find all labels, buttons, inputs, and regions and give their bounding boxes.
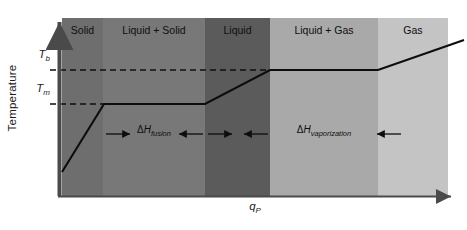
band-liquid-solid — [103, 18, 205, 196]
delta-symbol-vaporization: Δ — [297, 124, 304, 135]
enthalpy-vaporization-main: H — [304, 124, 311, 135]
tick-label-tb-sub: b — [46, 54, 50, 63]
enthalpy-label-fusion: ΔHfusion — [114, 124, 194, 138]
tick-label-tb-main: T — [39, 48, 46, 60]
delta-symbol-fusion: Δ — [137, 124, 144, 135]
x-axis-title: qP — [62, 200, 448, 215]
enthalpy-fusion-main: H — [144, 124, 151, 135]
phase-bands — [62, 18, 448, 196]
band-gas — [378, 18, 448, 196]
heating-curve-figure: Temperature Tb Tm Solid Liquid + Solid L… — [0, 0, 467, 230]
band-liquid-gas — [270, 18, 378, 196]
enthalpy-fusion-sub: fusion — [151, 129, 171, 138]
band-label-liquid-solid: Liquid + Solid — [103, 24, 205, 36]
band-label-liquid: Liquid — [205, 24, 270, 36]
tick-label-tm: Tm — [24, 82, 50, 97]
band-label-solid: Solid — [62, 24, 103, 36]
enthalpy-vaporization-sub: vaporization — [311, 129, 351, 138]
x-axis-title-sub: P — [256, 206, 261, 215]
band-solid — [62, 18, 103, 196]
band-label-liquid-gas: Liquid + Gas — [270, 24, 378, 36]
band-liquid — [205, 18, 270, 196]
enthalpy-label-vaporization: ΔHvaporization — [274, 124, 374, 138]
band-label-gas: Gas — [378, 24, 448, 36]
tick-label-tm-sub: m — [43, 88, 50, 97]
tick-label-tb: Tb — [24, 48, 50, 63]
